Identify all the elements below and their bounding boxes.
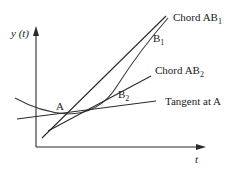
- x-axis-arrow-icon: [196, 144, 206, 150]
- tangent-label: Tangent at A: [165, 95, 221, 107]
- point-b2-main: B: [118, 88, 125, 100]
- point-b1-label: B1: [153, 32, 164, 47]
- point-b2-label: B2: [118, 88, 129, 103]
- chord-ab1-sub: 1: [218, 17, 222, 26]
- chord-ab1-line: [42, 16, 166, 138]
- tangent-chord-diagram: y (t) t A B1 B2 Chord AB1 Chord AB2 Tang…: [0, 0, 240, 173]
- chord-ab1-main: Chord AB: [173, 11, 218, 23]
- point-b2-sub: 2: [125, 94, 129, 103]
- y-axis-arrow-icon: [33, 26, 39, 36]
- curve-y-t: [15, 18, 168, 114]
- point-b1-sub: 1: [160, 38, 164, 47]
- point-a-label: A: [56, 100, 64, 112]
- x-axis-label: t: [195, 153, 199, 165]
- y-axis-label: y (t): [10, 27, 29, 40]
- chord-ab2-main: Chord AB: [155, 64, 200, 76]
- point-b1-main: B: [153, 32, 160, 44]
- chord-ab1-label: Chord AB1: [173, 11, 222, 26]
- chord-ab2-sub: 2: [200, 70, 204, 79]
- chord-ab2-label: Chord AB2: [155, 64, 204, 79]
